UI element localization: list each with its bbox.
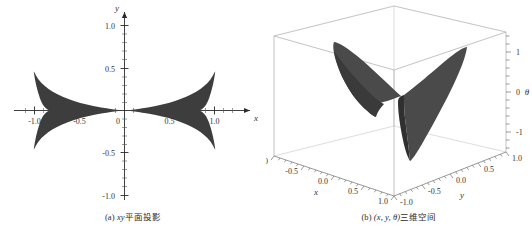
- figure-root: -1.0 -0.5 0 0.5 1.0 1.0 0.5 -0.5 -1.0 x …: [0, 0, 532, 238]
- y-tick-label: 0.5: [105, 65, 115, 74]
- caption-panel-a: (a) xy平面投影: [0, 210, 266, 222]
- x-tick-label: 0.5: [165, 117, 175, 126]
- caption-b-math: (x, y, θ): [374, 212, 400, 222]
- axis3d-y-tick-label: 0.0: [456, 176, 466, 185]
- chart-xy: -1.0 -0.5 0 0.5 1.0 1.0 0.5 -0.5 -1.0 x …: [0, 0, 266, 208]
- axis3d-y-tick-label: 0.5: [484, 165, 494, 174]
- axis3d-x-title: x: [313, 187, 318, 197]
- x-tick-label: 1.0: [210, 117, 220, 126]
- surface-sheet-right: [404, 47, 467, 161]
- x-tick-label: -1.0: [28, 117, 41, 126]
- axis3d-x-tick-label: 0.5: [348, 187, 358, 196]
- axis3d-y-tick-label: 1.0: [512, 154, 522, 163]
- box-top-face: [274, 6, 506, 70]
- axis3d-theta-tick-label: -1: [516, 128, 523, 137]
- caption-b-text: 三维空间: [400, 212, 436, 222]
- y-axis-title: y: [114, 3, 119, 13]
- axis3d-theta-tick-label: 0: [516, 88, 520, 97]
- axis3d-y-tick-label: -1.0: [400, 198, 413, 207]
- axis3d-theta-ticks: [506, 36, 511, 148]
- x-tick-label-origin: 0: [116, 117, 120, 126]
- caption-a-math: xy: [117, 212, 125, 222]
- y-tick-label: -0.5: [102, 149, 115, 158]
- box-back-edges: [274, 6, 506, 156]
- plot-area-3d: -1.0 -0.5 0.0 0.5 1.0 x -1.0 -0.5 0.0 0.…: [266, 0, 532, 208]
- chart-3d: -1.0 -0.5 0.0 0.5 1.0 x -1.0 -0.5 0.0 0.…: [266, 0, 532, 208]
- axis3d-x-ticks: [271, 156, 394, 200]
- axis3d-y-tick-label: -0.5: [428, 187, 441, 196]
- x-axis-title: x: [253, 113, 258, 123]
- x-tick-label: -0.5: [73, 117, 86, 126]
- box-vertical-edges: [274, 32, 506, 196]
- axis3d-x-tick-label: 1.0: [378, 197, 388, 206]
- axis3d-x-tick-label: -1.0: [266, 157, 268, 166]
- caption-b-index: (b): [361, 212, 371, 222]
- axis3d-theta-tick-label: 1: [516, 48, 520, 57]
- y-tick-label: 1.0: [105, 22, 115, 31]
- plot-area-xy: -1.0 -0.5 0 0.5 1.0 1.0 0.5 -0.5 -1.0 x …: [0, 0, 266, 208]
- axis3d-x-tick-label: -0.5: [285, 167, 298, 176]
- caption-panel-b: (b) (x, y, θ)三维空间: [266, 210, 532, 222]
- box-bottom-edges: [274, 152, 506, 196]
- caption-a-text: 平面投影: [125, 212, 161, 222]
- panel-xytheta-3d: -1.0 -0.5 0.0 0.5 1.0 x -1.0 -0.5 0.0 0.…: [266, 0, 532, 238]
- x-axis-arrow-icon: [244, 108, 250, 113]
- y-axis-arrow-icon: [122, 12, 127, 18]
- panel-xy-projection: -1.0 -0.5 0 0.5 1.0 1.0 0.5 -0.5 -1.0 x …: [0, 0, 266, 238]
- axis3d-x-tick-label: 0.0: [318, 177, 328, 186]
- axis3d-y-title: y: [459, 190, 464, 200]
- y-tick-label: -1.0: [102, 192, 115, 201]
- caption-a-index: (a): [105, 212, 115, 222]
- axis3d-theta-title: θ: [525, 87, 530, 97]
